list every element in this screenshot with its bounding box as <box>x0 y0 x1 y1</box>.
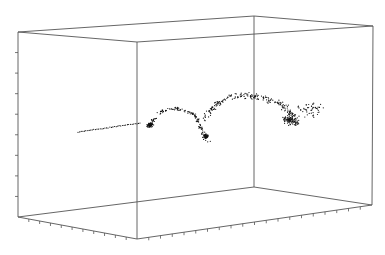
box-edge <box>18 32 137 42</box>
box-edge <box>137 26 373 42</box>
axes-box <box>18 16 373 239</box>
box-edge <box>18 187 254 217</box>
box-edge <box>18 217 137 239</box>
box-edge <box>254 16 373 26</box>
axis-ticks <box>15 53 360 241</box>
box-edge <box>372 26 373 205</box>
3d-scatter-chart <box>0 0 385 255</box>
plot-area <box>0 0 385 255</box>
data-points <box>77 92 324 142</box>
box-edge <box>254 187 372 205</box>
box-edge <box>18 16 254 32</box>
